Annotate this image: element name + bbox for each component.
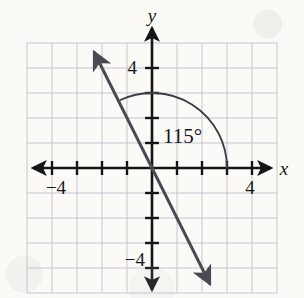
y-axis-tick-label-negative-four: −4 [125, 249, 146, 270]
figure-page: . [0, 0, 304, 298]
x-axis-tick-label-positive-four: 4 [245, 177, 255, 198]
coordinate-plane-figure: x y 4 −4 −4 4 115° [0, 0, 304, 298]
x-axis-name-label: x [279, 158, 289, 179]
x-axis-tick-label-negative-four: −4 [46, 177, 67, 198]
angle-measure-label: 115° [163, 124, 202, 148]
y-axis-tick-label-positive-four: 4 [128, 57, 138, 78]
y-axis-name-label: y [146, 5, 157, 26]
